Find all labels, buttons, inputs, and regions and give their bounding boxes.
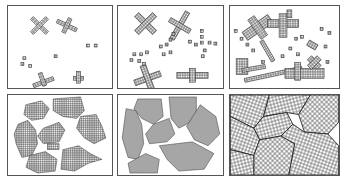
stage-6-panel <box>229 94 340 176</box>
stage-3-dendrites-illustration <box>230 6 339 88</box>
stage-5-grain-growth-illustration <box>118 95 223 175</box>
stage-2-panel <box>117 5 224 89</box>
stage-1-panel <box>7 5 113 89</box>
stage-5-panel <box>117 94 224 176</box>
stage-3-panel <box>229 5 340 89</box>
stage-2-growth-illustration <box>118 6 223 88</box>
stage-6-polycrystal-illustration <box>230 95 339 175</box>
stage-4-grain-clusters-illustration <box>8 95 112 175</box>
stage-4-panel <box>7 94 113 176</box>
stage-1-nuclei-illustration <box>8 6 112 88</box>
